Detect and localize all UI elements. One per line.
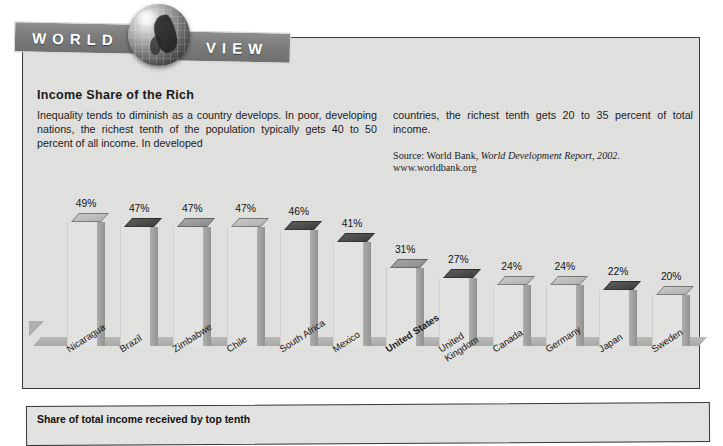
bar-top-face — [656, 286, 694, 295]
bar-side-face — [363, 242, 371, 346]
article-column-left: Inequality tends to diminish as a countr… — [37, 108, 377, 151]
income-share-bar-chart: 49%47%47%47%46%41%31%27%24%24%22%20% — [29, 186, 695, 346]
bar-mexico: 41% — [333, 233, 371, 346]
globe-icon — [128, 4, 190, 66]
bar-top-face — [124, 218, 162, 227]
bar-brazil: 47% — [120, 218, 158, 346]
bar-top-face — [550, 276, 588, 285]
source-prefix: Source: World Bank, — [393, 150, 481, 161]
bar-value-label: 47% — [169, 203, 215, 214]
chart-x-axis-labels: NicaraguaBrazilZimbabweChileSouth Africa… — [29, 346, 695, 408]
bar-side-face — [629, 290, 637, 346]
source-report-title: World Development Report, 2002. — [481, 150, 620, 161]
chart-axis-caption: Share of total income received by top te… — [37, 414, 250, 425]
bar-value-label: 24% — [489, 261, 535, 272]
bar-top-face — [284, 221, 322, 230]
source-url: www.worldbank.org — [393, 162, 476, 175]
bar-front-face — [227, 227, 258, 346]
bar-top-face — [71, 213, 109, 222]
chart-floor-left-cap — [29, 321, 43, 337]
bar-value-label: 24% — [542, 261, 588, 272]
bar-value-label: 41% — [329, 218, 375, 229]
bar-value-label: 31% — [382, 244, 428, 255]
bar-top-face — [443, 269, 481, 278]
article-column-right: countries, the richest tenth gets 20 to … — [393, 108, 693, 136]
world-view-panel: Income Share of the Rich Inequality tend… — [22, 37, 700, 389]
bar-value-label: 47% — [116, 203, 162, 214]
bar-value-label: 46% — [276, 206, 322, 217]
banner-word-view: VIEW — [206, 32, 269, 64]
bar-top-face — [177, 218, 215, 227]
bar-value-label: 27% — [435, 254, 481, 265]
bar-value-label: 22% — [595, 266, 641, 277]
bar-top-face — [231, 218, 269, 227]
bar-value-label: 49% — [63, 198, 109, 209]
bar-top-face — [497, 276, 535, 285]
bar-front-face — [120, 227, 151, 346]
bar-value-label: 47% — [223, 203, 269, 214]
bar-top-face — [603, 281, 641, 290]
bar-value-label: 20% — [648, 271, 694, 282]
bar-chile: 47% — [227, 218, 265, 346]
source-citation: Source: World Bank, World Development Re… — [393, 150, 620, 163]
bar-side-face — [150, 227, 158, 346]
globe-highlight — [137, 10, 159, 27]
page-title: Income Share of the Rich — [37, 88, 194, 102]
bar-top-face — [337, 233, 375, 242]
bar-front-face — [333, 242, 364, 346]
bar-top-face — [390, 259, 428, 268]
banner-word-world: WORLD — [32, 23, 119, 56]
bar-side-face — [682, 295, 690, 346]
bar-side-face — [257, 227, 265, 346]
